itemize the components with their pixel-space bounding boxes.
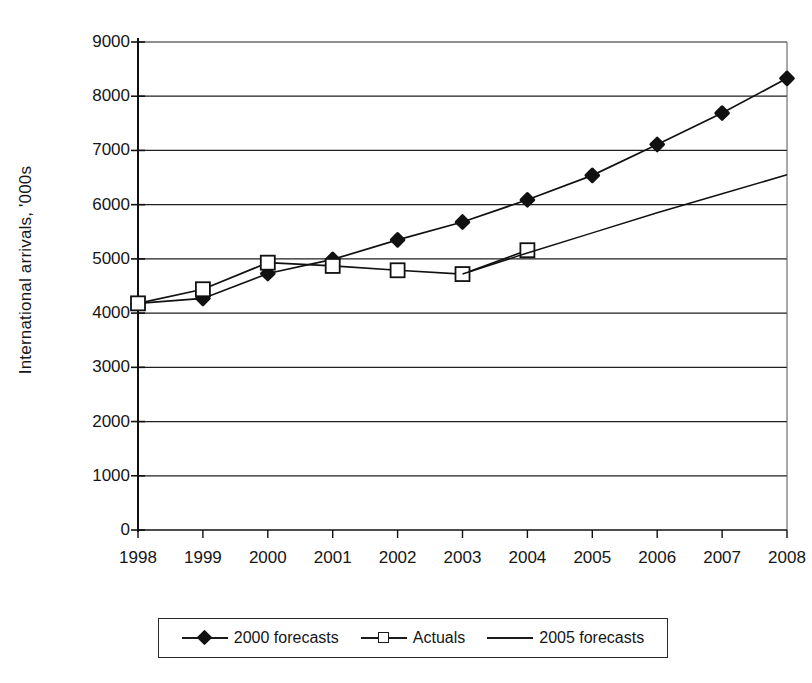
y-tick-label: 5000 [60, 250, 130, 267]
data-point-marker [651, 138, 663, 150]
data-point-marker [781, 72, 793, 84]
x-tick-label: 1999 [168, 548, 238, 568]
data-series-layer [131, 72, 793, 310]
y-tick-label: 9000 [60, 33, 130, 50]
data-point-marker [391, 234, 403, 246]
x-tick-label: 2005 [557, 548, 627, 568]
y-tick-label: 2000 [60, 413, 130, 430]
y-tick-label: 4000 [60, 304, 130, 321]
plain-line-marker-icon [487, 631, 533, 645]
legend-label-actuals: Actuals [413, 629, 465, 647]
data-point-marker [196, 282, 210, 296]
data-point-marker [391, 263, 405, 277]
data-point-marker [456, 216, 468, 228]
legend-item-actuals: Actuals [361, 629, 465, 647]
legend-label-2000-forecasts: 2000 forecasts [234, 629, 339, 647]
legend-item-2005-forecasts: 2005 forecasts [487, 629, 644, 647]
chart-container: International arrivals, '000s 0100020003… [0, 0, 812, 683]
x-tick-label: 2004 [492, 548, 562, 568]
legend-item-2000-forecasts: 2000 forecasts [182, 629, 339, 647]
x-tick-label: 2003 [428, 548, 498, 568]
y-tick-label: 6000 [60, 196, 130, 213]
x-tick-label: 2000 [233, 548, 303, 568]
x-tick-label: 1998 [103, 548, 173, 568]
y-tick-label: 8000 [60, 87, 130, 104]
x-tick-label: 2008 [752, 548, 812, 568]
x-tick-label: 2001 [298, 548, 368, 568]
data-point-marker [716, 107, 728, 119]
filled-diamond-marker-icon [182, 631, 228, 645]
y-axis-tick-labels: 0100020003000400050006000700080009000 [55, 0, 130, 560]
y-axis-title-text: International arrivals, '000s [16, 166, 36, 374]
data-point-marker [586, 169, 598, 181]
data-point-marker [326, 259, 340, 273]
y-tick-label: 1000 [60, 467, 130, 484]
open-square-marker-icon [361, 631, 407, 645]
legend-label-2005-forecasts: 2005 forecasts [539, 629, 644, 647]
y-tick-label: 0 [60, 521, 130, 538]
chart-legend: 2000 forecasts Actuals 2005 forecasts [158, 618, 668, 658]
x-tick-label: 2006 [622, 548, 692, 568]
x-tick-label: 2002 [363, 548, 433, 568]
data-point-marker [261, 256, 275, 270]
data-point-marker [131, 296, 145, 310]
x-tick-label: 2007 [687, 548, 757, 568]
y-tick-label: 7000 [60, 141, 130, 158]
y-axis-title: International arrivals, '000s [6, 0, 46, 540]
y-tick-label: 3000 [60, 358, 130, 375]
